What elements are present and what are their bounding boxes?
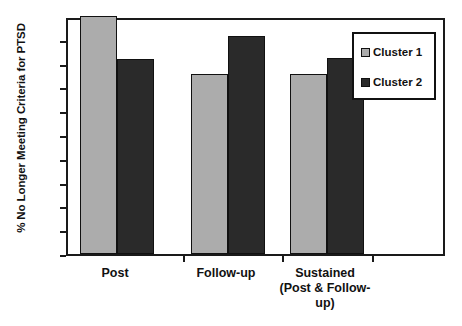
legend-swatch-cluster-1-icon [361,48,370,57]
bar-cluster-1 [290,74,327,254]
bar-chart-figure: % No Longer Meeting Criteria for PTSD 01… [0,0,462,326]
x-axis-category-line: Sustained [255,266,395,281]
x-tick-mark [282,256,284,262]
x-axis-category-line: (Post & Follow- [255,281,395,296]
bar-cluster-2 [228,36,265,254]
x-tick-mark [183,256,185,262]
figure-caption [0,315,462,326]
bar-cluster-1 [191,74,228,254]
x-axis-category-line: up) [255,296,395,311]
chart-legend: Cluster 1 Cluster 2 [352,32,436,100]
legend-label-cluster-2: Cluster 2 [373,76,422,88]
bar-cluster-2 [117,59,154,254]
bar-cluster-1 [80,16,117,254]
y-axis-title: % No Longer Meeting Criteria for PTSD [15,3,27,253]
x-axis-category-label: Sustained(Post & Follow-up) [255,266,395,311]
legend-item-cluster-1: Cluster 1 [361,46,422,58]
legend-item-cluster-2: Cluster 2 [361,76,422,88]
legend-label-cluster-1: Cluster 1 [373,46,422,58]
x-tick-mark [372,256,374,262]
legend-swatch-cluster-2-icon [361,78,370,87]
